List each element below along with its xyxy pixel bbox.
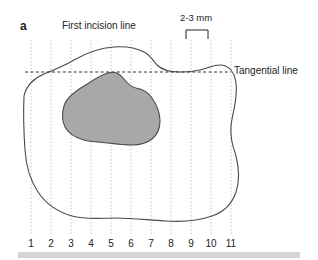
axis-tick-6: 6: [123, 239, 139, 249]
axis-tick-4: 4: [83, 239, 99, 249]
axis-tick-9: 9: [183, 239, 199, 249]
axis-tick-10: 10: [203, 239, 219, 249]
measurement-bracket: [186, 30, 208, 39]
axis-tick-1: 1: [23, 239, 39, 249]
tangential-line-label: Tangential line: [234, 66, 298, 76]
axis-tick-3: 3: [63, 239, 79, 249]
axis-tick-8: 8: [163, 239, 179, 249]
measurement-label: 2-3 mm: [180, 13, 212, 23]
figure-canvas: [0, 0, 318, 260]
lesion-shape-path: [63, 72, 160, 145]
axis-tick-11: 11: [223, 239, 239, 249]
axis-tick-7: 7: [143, 239, 159, 249]
bottom-gray-bar: [18, 252, 300, 258]
axis-tick-2: 2: [43, 239, 59, 249]
first-incision-line-label: First incision line: [62, 21, 136, 31]
panel-letter-a: a: [20, 20, 27, 32]
axis-tick-5: 5: [103, 239, 119, 249]
